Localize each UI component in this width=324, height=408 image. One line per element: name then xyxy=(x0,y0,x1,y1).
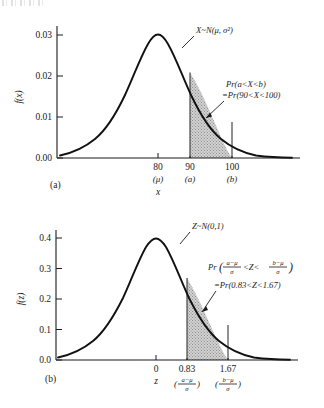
y-tick-label-a-2: 0.02 xyxy=(35,71,52,81)
svg-text:(: ( xyxy=(174,379,178,389)
y-ticks-a xyxy=(57,35,63,158)
svg-text:a−μ: a−μ xyxy=(226,259,238,266)
x-tick-label-a-2: 100 xyxy=(225,162,240,172)
svg-text:b−μ: b−μ xyxy=(222,376,234,383)
panel-label-b: (b) xyxy=(45,374,56,385)
x-tick-label-b-2: 1.67 xyxy=(220,364,237,374)
svg-text:a−μ: a−μ xyxy=(181,376,193,383)
x-tick-sublabel-a-2: (b) xyxy=(227,174,238,184)
svg-text:σ: σ xyxy=(185,385,189,392)
shaded-region-b xyxy=(187,278,228,360)
y-axis-title-a: f(x) xyxy=(14,90,25,103)
panel-label-a: (a) xyxy=(50,180,61,191)
leader-line-a-dist xyxy=(182,36,194,48)
svg-text:σ: σ xyxy=(226,385,230,392)
x-tick-sublabel-a-0: (μ) xyxy=(153,174,164,184)
x-tick-label-a-1: 90 xyxy=(185,162,195,172)
y-tick-label-b-4: 0.4 xyxy=(39,233,51,243)
leader-line-b-dist xyxy=(180,232,190,244)
panel-a-chart: 0.00 0.01 0.02 0.03 f(x) 80 90 100 (μ) (… xyxy=(0,0,324,200)
y-tick-label-b-0: 0.0 xyxy=(39,355,51,365)
y-tick-label-a-0: 0.00 xyxy=(35,153,52,163)
statistics-figure: 0.00 0.01 0.02 0.03 f(x) 80 90 100 (μ) (… xyxy=(0,0,324,408)
x-axis-title-b: z xyxy=(153,376,158,386)
normal-curve-b xyxy=(58,239,290,360)
y-tick-label-a-3: 0.03 xyxy=(35,30,52,40)
x-tick-label-a-0: 80 xyxy=(153,162,163,172)
x-tick-label-b-1: 0.83 xyxy=(179,364,196,374)
svg-text:): ) xyxy=(237,379,241,389)
probability-annotation-a-line1: Pr(a<X<b) xyxy=(225,79,266,89)
svg-text:σ: σ xyxy=(276,268,280,275)
probability-annotation-a-line2: =Pr(90<X<100) xyxy=(222,90,281,100)
y-axis-title-b: f(z) xyxy=(16,293,27,306)
y-tick-label-a-1: 0.01 xyxy=(35,112,52,122)
svg-text:<Z<: <Z< xyxy=(243,262,259,272)
svg-text:): ) xyxy=(288,260,293,274)
y-tick-label-b-1: 0.1 xyxy=(39,325,51,335)
svg-text:): ) xyxy=(196,379,200,389)
panel-b-chart: 0.0 0.1 0.2 0.3 0.4 f(z) 0 0.83 1.67 z (… xyxy=(0,200,324,408)
distribution-label-b: Z~N(0,1) xyxy=(192,221,224,231)
x-tick-fraction-b-1: ( a−μ σ ) xyxy=(174,376,200,392)
svg-text:(: ( xyxy=(215,379,219,389)
y-tick-label-b-3: 0.3 xyxy=(39,264,51,274)
svg-text:σ: σ xyxy=(230,268,234,275)
y-tick-label-b-2: 0.2 xyxy=(39,294,51,304)
distribution-label-a: X~N(μ, σ²) xyxy=(195,25,233,35)
x-axis-title-a: x xyxy=(155,187,161,197)
svg-text:Pr: Pr xyxy=(207,262,217,272)
probability-annotation-b-line1: Pr ( a−μ σ <Z< b−μ σ ) xyxy=(207,259,293,275)
x-tick-sublabel-a-1: (a) xyxy=(185,174,196,184)
x-tick-fraction-b-2: ( b−μ σ ) xyxy=(215,376,241,392)
probability-annotation-b-line2: =Pr(0.83<Z<1.67) xyxy=(214,280,281,290)
svg-text:b−μ: b−μ xyxy=(272,259,284,266)
x-tick-label-b-0: 0 xyxy=(154,364,159,374)
y-ticks-b xyxy=(56,238,62,360)
